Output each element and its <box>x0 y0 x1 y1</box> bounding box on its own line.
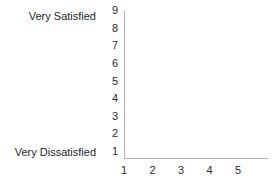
chart-container: Very Satisfied Very Dissatisfied 9876543… <box>0 0 277 184</box>
y-tick-value: 2 <box>112 128 118 139</box>
y-tick-value: 4 <box>112 93 118 104</box>
y-tick-value: 7 <box>112 40 118 51</box>
x-tick-value: 5 <box>235 165 241 176</box>
y-tick-value: 3 <box>112 111 118 122</box>
x-tick-value: 1 <box>121 165 127 176</box>
scale-label-very-satisfied: Very Satisfied <box>29 11 96 22</box>
plot-area <box>125 11 268 158</box>
y-tick-value: 1 <box>112 146 118 157</box>
y-tick-value: 9 <box>112 5 118 16</box>
scale-label-very-dissatisfied: Very Dissatisfied <box>15 147 96 158</box>
y-tick-value: 6 <box>112 58 118 69</box>
x-tick-value: 2 <box>149 165 155 176</box>
x-tick-value: 3 <box>178 165 184 176</box>
x-tick-value: 4 <box>206 165 212 176</box>
y-tick-value: 8 <box>112 23 118 34</box>
x-axis-line <box>124 158 268 159</box>
y-tick-value: 5 <box>112 76 118 87</box>
